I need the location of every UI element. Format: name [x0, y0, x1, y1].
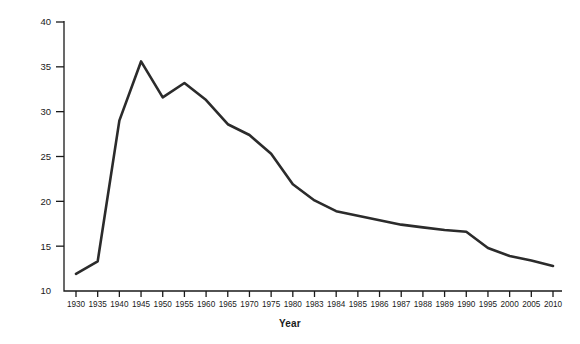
y-tick-label: 30	[40, 106, 51, 117]
x-tick-label: 1980	[284, 300, 303, 309]
x-tick-label: 1983	[305, 300, 324, 309]
x-tick-label: 1945	[132, 300, 151, 309]
y-tick-label: 35	[40, 61, 51, 72]
x-tick-label: 1986	[370, 300, 389, 309]
x-tick-label: 1935	[89, 300, 108, 309]
y-tick-label: 40	[40, 16, 51, 27]
data-series-line	[76, 61, 553, 274]
y-tick-label: 25	[40, 151, 51, 162]
x-tick-label: 1930	[67, 300, 86, 309]
x-tick-label: 1970	[240, 300, 259, 309]
x-tick-label: 1985	[349, 300, 368, 309]
x-tick-label: 2000	[501, 300, 520, 309]
x-tick-label: 1990	[457, 300, 476, 309]
x-tick-label: 1960	[197, 300, 216, 309]
axis-spine	[64, 21, 562, 291]
y-axis-ticks: 10152025303540	[40, 16, 64, 296]
x-tick-label: 2010	[544, 300, 563, 309]
x-tick-label: 1965	[219, 300, 238, 309]
chart-figure: Percent of the Labor Force 1015202530354…	[0, 0, 580, 344]
x-tick-label: 1975	[262, 300, 281, 309]
chart-plot-area: 10152025303540 1930193519401945195019551…	[0, 0, 580, 344]
x-tick-label: 1940	[110, 300, 129, 309]
x-tick-label: 1955	[175, 300, 194, 309]
x-tick-label: 1989	[435, 300, 454, 309]
y-tick-label: 10	[40, 285, 51, 296]
x-axis-title: Year	[0, 318, 580, 329]
x-tick-label: 1987	[392, 300, 411, 309]
y-tick-label: 15	[40, 241, 51, 252]
x-axis-ticks: 1930193519401945195019551960196519701975…	[67, 291, 563, 309]
x-tick-label: 1950	[154, 300, 173, 309]
x-tick-label: 1988	[414, 300, 433, 309]
x-tick-label: 1984	[327, 300, 346, 309]
x-tick-label: 2005	[522, 300, 541, 309]
x-tick-label: 1995	[479, 300, 498, 309]
y-tick-label: 20	[40, 196, 51, 207]
